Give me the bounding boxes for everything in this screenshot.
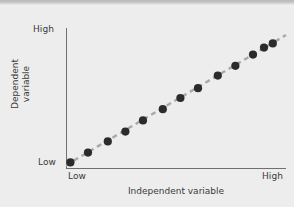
data-point — [249, 51, 257, 59]
data-point — [121, 128, 129, 136]
data-point — [260, 44, 268, 52]
data-point — [194, 84, 202, 92]
chart-plot-layer — [0, 0, 294, 207]
data-point — [84, 149, 92, 157]
data-point — [176, 94, 184, 102]
data-point — [214, 72, 222, 80]
data-point — [66, 158, 74, 166]
data-point — [159, 105, 167, 113]
data-point — [104, 137, 112, 145]
data-point — [231, 62, 239, 70]
chart-screenshot: High Low Low High Dependent variable Ind… — [0, 0, 294, 207]
data-point — [269, 39, 277, 47]
data-point — [139, 116, 147, 124]
